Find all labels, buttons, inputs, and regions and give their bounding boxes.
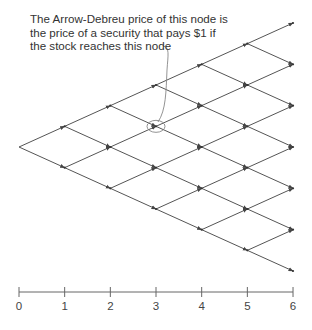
tick-label-2: 2 bbox=[102, 300, 118, 312]
tree-edge-down bbox=[202, 106, 248, 127]
tree-edge-up bbox=[156, 188, 202, 209]
tree-edge-down bbox=[19, 147, 65, 168]
tree-edge-up bbox=[65, 106, 111, 127]
tree-edge-up bbox=[247, 230, 293, 251]
tree-edge-down bbox=[202, 188, 248, 209]
tree-node bbox=[64, 167, 66, 169]
tree-node bbox=[246, 167, 248, 169]
tree-node bbox=[292, 22, 294, 24]
tree-edge-up bbox=[247, 106, 293, 127]
tree-edge-up bbox=[110, 126, 156, 147]
tree-node bbox=[292, 146, 294, 148]
tick-label-0: 0 bbox=[11, 300, 27, 312]
tree-edge-down bbox=[156, 168, 202, 189]
tree-node bbox=[246, 43, 248, 45]
tree-edge-down bbox=[247, 85, 293, 106]
tree-node bbox=[292, 229, 294, 231]
tree-edge-down bbox=[202, 64, 248, 85]
tree-edge-up bbox=[19, 126, 65, 147]
tree-edge-down bbox=[65, 168, 111, 189]
tree-edge-up bbox=[202, 126, 248, 147]
tick-label-3: 3 bbox=[148, 300, 164, 312]
tree-edge-up bbox=[110, 168, 156, 189]
tree-edge-up bbox=[156, 147, 202, 168]
tree-edge-down bbox=[247, 168, 293, 189]
time-axis bbox=[19, 287, 293, 297]
annotation-line: The Arrow-Debreu price of this node is bbox=[30, 12, 228, 26]
tree-edge-up bbox=[247, 147, 293, 168]
tree-edge-down bbox=[110, 188, 156, 209]
tree-node bbox=[246, 208, 248, 210]
tree-node bbox=[201, 105, 203, 107]
tree-edge-down bbox=[202, 230, 248, 251]
tree-node bbox=[292, 187, 294, 189]
tree-node bbox=[246, 125, 248, 127]
annotation-text: The Arrow-Debreu price of this node is t… bbox=[30, 12, 228, 53]
tree-node bbox=[155, 208, 157, 210]
tree-node bbox=[201, 229, 203, 231]
tree-edge-up bbox=[110, 85, 156, 106]
tick-label-6: 6 bbox=[285, 300, 301, 312]
tree-node bbox=[155, 84, 157, 86]
tree-node bbox=[201, 63, 203, 65]
tree-edge-down bbox=[202, 147, 248, 168]
tree-edge-down bbox=[247, 209, 293, 230]
tick-label-4: 4 bbox=[194, 300, 210, 312]
tree-node bbox=[292, 105, 294, 107]
tree-edge-down bbox=[156, 126, 202, 147]
tree-node bbox=[155, 125, 157, 127]
binomial-tree-diagram: The Arrow-Debreu price of this node is t… bbox=[0, 0, 312, 330]
tree-edge-down bbox=[156, 85, 202, 106]
tree-node bbox=[109, 187, 111, 189]
tree-node bbox=[201, 187, 203, 189]
tree-edge-down bbox=[110, 147, 156, 168]
tree-node bbox=[292, 63, 294, 65]
tree-edge-up bbox=[202, 168, 248, 189]
tick-label-5: 5 bbox=[239, 300, 255, 312]
tree-edge-down bbox=[110, 106, 156, 127]
tree-edge-up bbox=[202, 85, 248, 106]
tree-edge-up bbox=[156, 64, 202, 85]
annotation-line: the stock reaches this node bbox=[30, 39, 228, 53]
tree-edge-up bbox=[156, 106, 202, 127]
tree-edge-up bbox=[65, 147, 111, 168]
tree-edge-up bbox=[202, 209, 248, 230]
tree-node bbox=[292, 270, 294, 272]
tick-label-1: 1 bbox=[57, 300, 73, 312]
tree-edge-down bbox=[65, 126, 111, 147]
tree-node bbox=[155, 167, 157, 169]
tree-node bbox=[246, 249, 248, 251]
tree-edge-down bbox=[247, 44, 293, 65]
tree-node bbox=[246, 84, 248, 86]
tree-node bbox=[109, 146, 111, 148]
tree-edge-up bbox=[247, 64, 293, 85]
tree-node bbox=[201, 146, 203, 148]
callout-curve bbox=[158, 46, 168, 122]
tree-edge-up bbox=[247, 23, 293, 44]
annotation-line: the price of a security that pays $1 if bbox=[30, 26, 228, 40]
tree-node bbox=[64, 125, 66, 127]
tree-node bbox=[109, 105, 111, 107]
tree-edge-up bbox=[247, 188, 293, 209]
tree-edge-down bbox=[156, 209, 202, 230]
tree-edge-down bbox=[247, 126, 293, 147]
tree-edge-down bbox=[247, 250, 293, 271]
